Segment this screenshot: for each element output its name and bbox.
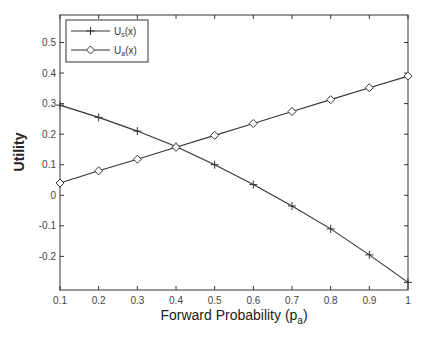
- y-tick-label: -0.1: [39, 220, 57, 231]
- y-tick-label: -0.2: [39, 251, 57, 262]
- y-tick-label: 0.1: [42, 159, 56, 170]
- x-tick-label: 0.5: [208, 295, 222, 306]
- x-tick-label: 0.3: [130, 295, 144, 306]
- y-tick-label: 0.2: [42, 129, 56, 140]
- y-tick-label: 0.3: [42, 98, 56, 109]
- legend-label-ua: Ua(x): [114, 45, 137, 57]
- y-tick-label: 0.5: [42, 37, 56, 48]
- x-tick-label: 0.2: [92, 295, 106, 306]
- x-tick-label: 0.9: [362, 295, 376, 306]
- x-tick-label: 1: [405, 295, 411, 306]
- x-axis-label: Forward Probability (pa): [160, 307, 307, 326]
- x-tick-label: 0.4: [169, 295, 183, 306]
- y-tick-label: 0: [50, 190, 56, 201]
- x-tick-label: 0.8: [324, 295, 338, 306]
- legend: Us(x) Ua(x): [66, 20, 148, 62]
- x-tick-label: 0.1: [53, 295, 67, 306]
- y-tick-label: 0.4: [42, 68, 56, 79]
- legend-label-us: Us(x): [114, 26, 136, 38]
- y-axis-label: Utility: [11, 132, 27, 171]
- line-chart: -0.2-0.100.10.20.30.40.5 0.10.20.30.40.5…: [0, 0, 423, 354]
- x-tick-label: 0.6: [246, 295, 260, 306]
- x-tick-label: 0.7: [285, 295, 299, 306]
